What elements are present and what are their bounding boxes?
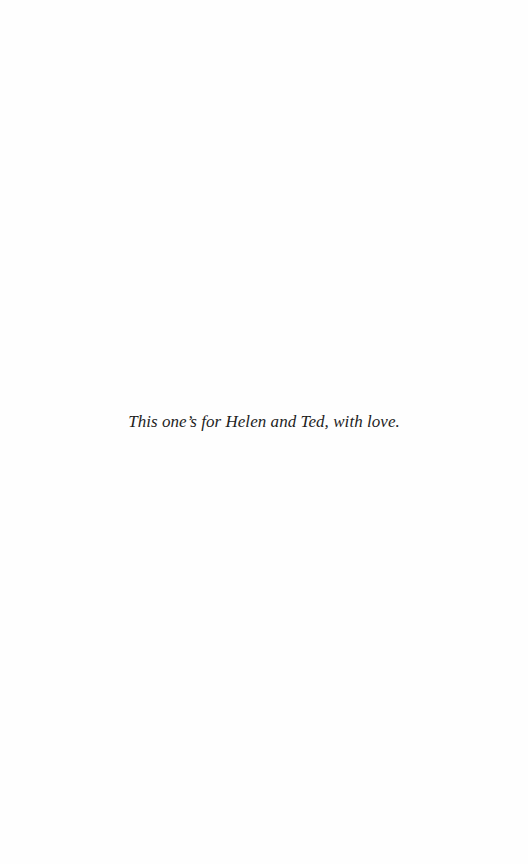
- book-page: This one’s for Helen and Ted, with love.: [0, 0, 528, 864]
- dedication-text: This one’s for Helen and Ted, with love.: [0, 411, 528, 433]
